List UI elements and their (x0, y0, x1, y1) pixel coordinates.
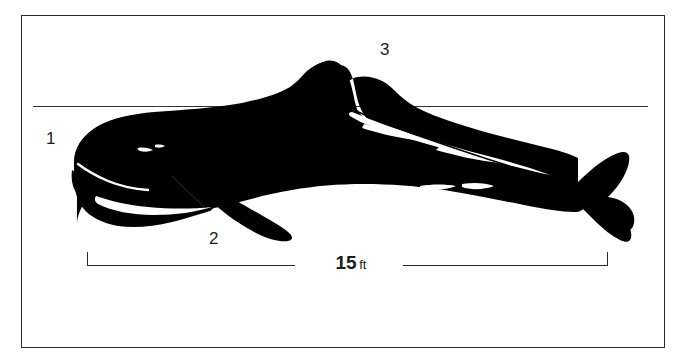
scale-tick-right (607, 252, 608, 266)
scale-caption: 15ft (299, 252, 403, 274)
scale-value: 15 (336, 252, 357, 273)
scale-bar: 15ft (87, 252, 608, 274)
scale-unit: ft (359, 257, 366, 272)
reference-waterline (33, 106, 648, 107)
whale-figure: 1 2 3 15ft (0, 0, 688, 364)
callout-2-flipper: 2 (209, 230, 219, 247)
callout-3-dorsal-fin: 3 (380, 41, 390, 58)
scale-rule-right (403, 265, 608, 266)
callout-1-head: 1 (46, 130, 56, 147)
figure-border (21, 15, 665, 348)
scale-rule-left (87, 265, 295, 266)
